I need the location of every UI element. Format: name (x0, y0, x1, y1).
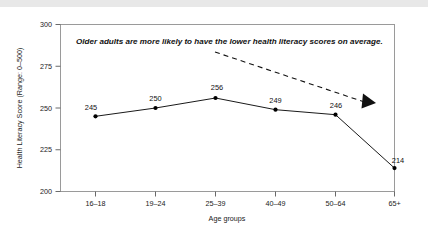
data-point-label-249: 249 (269, 96, 281, 105)
x-axis-ticks (96, 192, 395, 197)
x-tick-label-40-49: 40–49 (266, 199, 286, 208)
x-axis-title: Age groups (209, 214, 246, 223)
y-tick-label-300: 300 (40, 20, 52, 29)
line-chart: 300 275 250 225 200 Health Literacy Scor… (0, 0, 428, 237)
data-point-marker[interactable] (273, 108, 277, 112)
x-tick-label-25-39: 25–39 (206, 199, 226, 208)
data-point-label-246: 246 (330, 101, 342, 110)
x-tick-label-50-64: 50–64 (326, 199, 346, 208)
x-tick-label-16-18: 16–18 (86, 199, 106, 208)
data-point-marker[interactable] (213, 96, 217, 100)
y-axis-title: Health Literacy Score (Range: 0–500) (15, 48, 24, 169)
data-point-marker[interactable] (153, 106, 157, 110)
x-tick-label-65plus: 65+ (388, 199, 400, 208)
data-point-label-245: 245 (85, 103, 97, 112)
y-tick-label-200: 200 (40, 187, 52, 196)
y-axis-ticks (56, 25, 61, 192)
annotation-label: Older adults are more likely to have the… (76, 37, 383, 46)
data-point-marker[interactable] (93, 114, 97, 118)
y-tick-label-275: 275 (40, 62, 52, 71)
data-point-label-214: 214 (392, 156, 404, 165)
data-point-label-256: 256 (211, 83, 223, 92)
data-point-marker[interactable] (392, 166, 396, 170)
plot-frame (61, 25, 395, 192)
figure-canvas: 300 275 250 225 200 Health Literacy Scor… (0, 0, 428, 237)
y-tick-label-250: 250 (40, 104, 52, 113)
data-point-marker[interactable] (333, 113, 337, 117)
y-tick-label-225: 225 (40, 145, 52, 154)
data-point-label-250: 250 (149, 94, 161, 103)
x-tick-label-19-24: 19–24 (146, 199, 166, 208)
